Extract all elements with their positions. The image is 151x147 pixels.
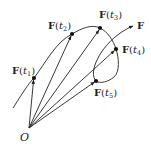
label-f-t2: F(t2)	[48, 21, 71, 33]
label-f-t1: F(t1)	[12, 66, 35, 78]
point-t3	[98, 26, 102, 30]
vector-t2	[29, 36, 71, 128]
label-curve-f: F	[137, 21, 144, 31]
label-f-t4: F(t4)	[122, 45, 145, 57]
vector-t1	[29, 80, 34, 128]
label-f-t3: F(t3)	[99, 10, 122, 22]
label-f-t5: F(t5)	[94, 88, 117, 100]
point-t2	[70, 32, 74, 36]
point-t4	[114, 47, 118, 51]
vector-function-diagram: F(t1) F(t2) F(t3) F(t4) F(t5) F O	[0, 0, 151, 147]
vector-t3	[29, 30, 99, 128]
curve-points	[32, 26, 118, 83]
vector-t5	[29, 82, 95, 128]
label-origin: O	[20, 132, 29, 143]
point-t5	[94, 79, 98, 83]
position-vectors	[29, 30, 115, 128]
